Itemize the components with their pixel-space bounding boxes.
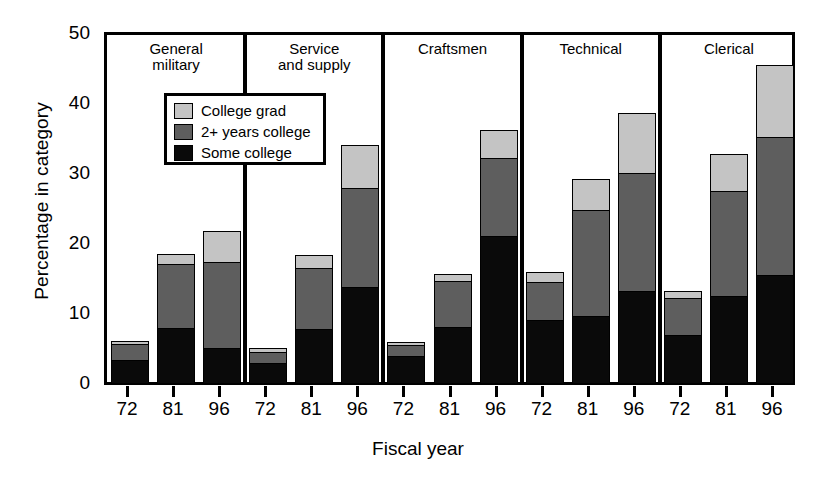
- segment-2plus-years-college: [757, 137, 793, 275]
- legend-swatch-icon: [174, 145, 193, 161]
- segment-some-college: [204, 348, 240, 383]
- segment-college-grad: [619, 114, 655, 173]
- group-header-2: Craftsmen: [383, 41, 521, 57]
- segment-college-grad: [573, 180, 609, 210]
- segment-some-college: [665, 335, 701, 383]
- x-tick-mark-1-96: [356, 386, 359, 397]
- y-tick-label-50: 50: [44, 22, 90, 44]
- group-header-line1: Craftsmen: [383, 41, 521, 57]
- x-tick-mark-4-81: [725, 386, 728, 397]
- x-tick-mark-0-72: [126, 386, 129, 397]
- x-tick-label-0-72: 72: [105, 398, 149, 420]
- x-tick-mark-4-96: [771, 386, 774, 397]
- segment-2plus-years-college: [527, 282, 563, 320]
- legend-swatch-icon: [174, 103, 193, 119]
- x-tick-mark-2-72: [402, 386, 405, 397]
- segment-some-college: [757, 275, 793, 383]
- x-tick-label-2-96: 96: [474, 398, 518, 420]
- x-tick-mark-1-72: [264, 386, 267, 397]
- segment-some-college: [112, 360, 148, 383]
- group-header-line1: Service: [245, 41, 383, 57]
- x-tick-label-0-96: 96: [197, 398, 241, 420]
- segment-2plus-years-college: [665, 298, 701, 334]
- x-tick-label-1-96: 96: [335, 398, 379, 420]
- segment-college-grad: [711, 155, 747, 191]
- y-tick-label-0: 0: [44, 372, 90, 394]
- group-divider-3: [520, 35, 524, 382]
- x-tick-mark-1-81: [310, 386, 313, 397]
- group-divider-4: [658, 35, 662, 382]
- legend-item-1: 2+ years college: [174, 122, 316, 142]
- group-header-line2: military: [107, 57, 245, 73]
- legend-label: Some college: [201, 145, 292, 161]
- segment-college-grad: [296, 256, 332, 268]
- segment-2plus-years-college: [481, 158, 517, 236]
- segment-some-college: [342, 287, 378, 383]
- bar-1-81: [295, 255, 333, 382]
- x-tick-label-4-81: 81: [704, 398, 748, 420]
- segment-2plus-years-college: [112, 344, 148, 360]
- x-tick-label-4-96: 96: [750, 398, 794, 420]
- segment-2plus-years-college: [711, 191, 747, 297]
- legend-label: College grad: [201, 103, 286, 119]
- x-tick-label-2-81: 81: [428, 398, 472, 420]
- group-divider-2: [381, 35, 385, 382]
- x-tick-mark-3-81: [587, 386, 590, 397]
- y-tick-label-40: 40: [44, 92, 90, 114]
- segment-some-college: [711, 296, 747, 383]
- segment-college-grad: [342, 146, 378, 187]
- bar-1-72: [249, 348, 287, 382]
- segment-2plus-years-college: [158, 264, 194, 328]
- x-tick-label-0-81: 81: [151, 398, 195, 420]
- y-tick-label-20: 20: [44, 232, 90, 254]
- segment-college-grad: [527, 273, 563, 282]
- legend-item-0: College grad: [174, 101, 316, 121]
- segment-2plus-years-college: [573, 210, 609, 316]
- y-tick-label-30: 30: [44, 162, 90, 184]
- group-header-4: Clerical: [660, 41, 798, 57]
- segment-2plus-years-college: [619, 173, 655, 291]
- bar-3-96: [618, 113, 656, 382]
- x-tick-label-1-72: 72: [243, 398, 287, 420]
- x-tick-mark-2-96: [495, 386, 498, 397]
- bar-3-72: [526, 272, 564, 382]
- segment-some-college: [158, 328, 194, 383]
- x-tick-label-4-72: 72: [658, 398, 702, 420]
- bar-2-72: [387, 342, 425, 382]
- group-header-line1: General: [107, 41, 245, 57]
- x-tick-label-1-81: 81: [289, 398, 333, 420]
- chart-legend: College grad2+ years collegeSome college: [164, 93, 326, 165]
- segment-2plus-years-college: [250, 352, 286, 363]
- segment-some-college: [481, 236, 517, 383]
- x-tick-label-3-96: 96: [612, 398, 656, 420]
- group-header-line1: Clerical: [660, 41, 798, 57]
- bar-3-81: [572, 179, 610, 382]
- legend-swatch-icon: [174, 124, 193, 140]
- segment-2plus-years-college: [388, 345, 424, 356]
- chart-figure: Percentage in category 01020304050 Gener…: [0, 0, 836, 481]
- group-header-3: Technical: [522, 41, 660, 57]
- segment-some-college: [250, 363, 286, 383]
- bar-4-96: [756, 65, 794, 382]
- segment-some-college: [619, 291, 655, 383]
- bar-0-72: [111, 341, 149, 382]
- bar-0-96: [203, 231, 241, 382]
- x-tick-mark-4-72: [679, 386, 682, 397]
- segment-college-grad: [481, 131, 517, 158]
- segment-some-college: [573, 316, 609, 383]
- segment-college-grad: [204, 232, 240, 262]
- segment-2plus-years-college: [296, 268, 332, 329]
- x-tick-label-3-81: 81: [566, 398, 610, 420]
- segment-some-college: [435, 327, 471, 383]
- group-header-line1: Technical: [522, 41, 660, 57]
- group-header-1: Serviceand supply: [245, 41, 383, 73]
- group-header-line2: and supply: [245, 57, 383, 73]
- x-tick-label-2-72: 72: [381, 398, 425, 420]
- group-divider-1: [243, 35, 247, 382]
- segment-some-college: [527, 320, 563, 383]
- bar-4-72: [664, 291, 702, 382]
- plot-area: GeneralmilitaryServiceand supplyCraftsme…: [104, 32, 795, 385]
- segment-some-college: [296, 329, 332, 383]
- x-tick-mark-2-81: [449, 386, 452, 397]
- x-tick-label-3-72: 72: [520, 398, 564, 420]
